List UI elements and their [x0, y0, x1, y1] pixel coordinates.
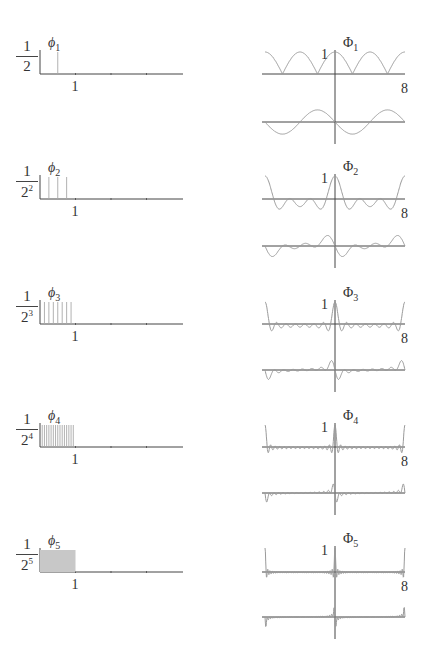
- Phi-x-label-3: 8: [401, 332, 408, 346]
- Phi-x-label-5: 8: [401, 580, 408, 594]
- Phi-label-2: Φ2: [343, 160, 358, 177]
- x-tick-label-1: 1: [72, 80, 79, 94]
- x-tick-label-4: 1: [72, 453, 79, 467]
- phi-label-2: ϕ2: [48, 161, 60, 178]
- Phi-x-label-1: 8: [401, 82, 408, 96]
- x-tick-label-2: 1: [72, 205, 79, 219]
- phi-label-5: ϕ5: [48, 534, 60, 551]
- Phi-label-1: Φ1: [343, 36, 358, 53]
- height-label-1: 12: [16, 38, 38, 75]
- phi-label-4: ϕ4: [48, 409, 60, 426]
- phi-label-1: ϕ1: [48, 36, 60, 53]
- Phi-peak-label-2: 1: [321, 172, 328, 186]
- Phi-x-label-2: 8: [401, 207, 408, 221]
- height-label-5: 125: [16, 536, 38, 574]
- height-label-3: 123: [16, 288, 38, 326]
- Phi-label-5: Φ5: [343, 532, 358, 549]
- Phi-x-label-4: 8: [401, 455, 408, 469]
- Phi-label-3: Φ3: [343, 286, 358, 303]
- Phi-peak-label-3: 1: [321, 298, 328, 312]
- height-label-4: 124: [16, 411, 38, 449]
- height-label-2: 122: [16, 163, 38, 201]
- Phi-peak-label-1: 1: [321, 48, 328, 62]
- Phi-label-4: Φ4: [343, 409, 358, 426]
- x-tick-label-5: 1: [72, 578, 79, 592]
- Phi-peak-label-5: 1: [321, 544, 328, 558]
- x-tick-label-3: 1: [72, 330, 79, 344]
- Phi-imag-curve-5: [265, 608, 405, 627]
- phi5-dense-spikes: [40, 550, 76, 572]
- plot-canvas: [0, 0, 428, 672]
- Phi-peak-label-4: 1: [321, 421, 328, 435]
- phi-label-3: ϕ3: [48, 286, 60, 303]
